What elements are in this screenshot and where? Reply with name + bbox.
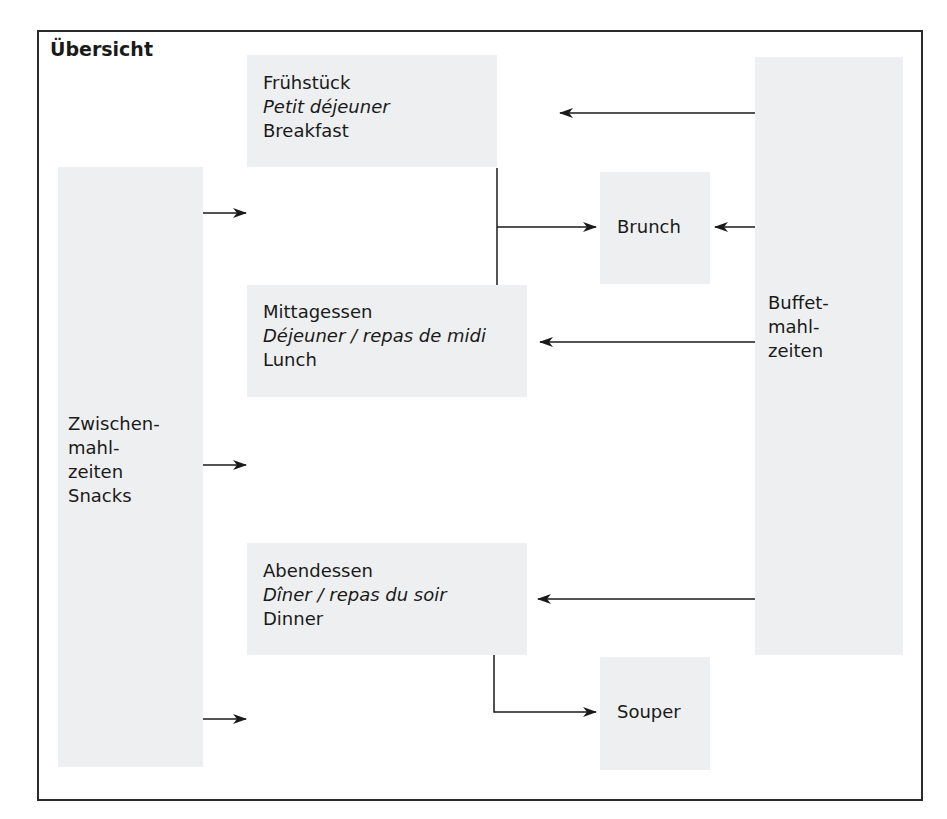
arrow-dinner-souper [494, 655, 596, 712]
connector-lines [0, 0, 947, 819]
